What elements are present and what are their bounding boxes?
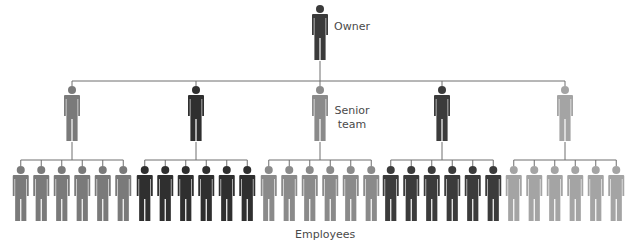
employee-person-icon: [383, 166, 399, 221]
employee-person-icon: [302, 166, 318, 221]
people: [13, 5, 625, 221]
employee-person-icon: [239, 166, 255, 221]
employee-person-icon: [424, 166, 440, 221]
senior-person-icon: [188, 86, 204, 141]
employee-person-icon: [261, 166, 277, 221]
employee-person-icon: [178, 166, 194, 221]
employees-label: Employees: [295, 228, 355, 242]
employee-person-icon: [95, 166, 111, 221]
employee-person-icon: [363, 166, 379, 221]
employee-person-icon: [485, 166, 501, 221]
employee-person-icon: [219, 166, 235, 221]
employee-person-icon: [198, 166, 214, 221]
employee-person-icon: [547, 166, 563, 221]
employee-person-icon: [13, 166, 29, 221]
employee-person-icon: [567, 166, 583, 221]
employee-person-icon: [465, 166, 481, 221]
employee-person-icon: [115, 166, 131, 221]
owner-person-icon: [312, 5, 328, 60]
senior-team-label-line1: Senior: [334, 104, 370, 118]
senior-person-icon: [434, 86, 450, 141]
senior-person-icon: [64, 86, 80, 141]
employee-person-icon: [343, 166, 359, 221]
senior-team-label-line2: team: [334, 118, 370, 132]
employee-person-icon: [526, 166, 542, 221]
employee-person-icon: [506, 166, 522, 221]
senior-team-label: Senior team: [334, 104, 370, 132]
employee-person-icon: [322, 166, 338, 221]
employee-person-icon: [137, 166, 153, 221]
employee-person-icon: [281, 166, 297, 221]
employee-person-icon: [54, 166, 70, 221]
employee-person-icon: [33, 166, 49, 221]
senior-person-icon: [312, 86, 328, 141]
owner-label: Owner: [334, 20, 370, 34]
employee-person-icon: [74, 166, 90, 221]
org-chart: [0, 0, 633, 245]
employee-person-icon: [608, 166, 624, 221]
employee-person-icon: [444, 166, 460, 221]
employee-person-icon: [588, 166, 604, 221]
employee-person-icon: [403, 166, 419, 221]
senior-person-icon: [557, 86, 573, 141]
employee-person-icon: [157, 166, 173, 221]
